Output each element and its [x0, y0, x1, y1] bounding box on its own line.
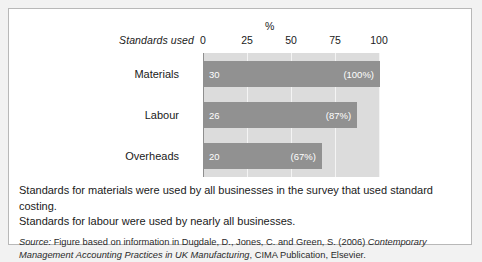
source-text-1: Figure based on information in Dugdale, … [51, 237, 368, 247]
bar-materials: 30(100%) [204, 61, 380, 87]
bar-overheads: 20(67%) [204, 143, 322, 169]
bar-count-label-overheads: 20 [209, 151, 220, 162]
x-axis-tick-row: 0255075100 [203, 34, 379, 48]
axis-unit-label: % [265, 20, 274, 32]
bar-count-label-labour: 26 [209, 110, 220, 121]
source-text-2: , CIMA Publication, Elsevier. [250, 250, 366, 260]
x-axis-tick-25: 25 [232, 34, 262, 46]
x-axis-tick-0: 0 [188, 34, 218, 46]
source-title-2: Accounting Practices in UK Manufacturing [76, 250, 250, 260]
caption-line-2: Standards for labour were used by nearly… [19, 214, 461, 230]
bar-chart: % Standards used 0255075100 MaterialsLab… [9, 9, 471, 179]
caption-line-1: Standards for materials were used by all… [19, 183, 461, 214]
bar-count-label-materials: 30 [209, 68, 220, 79]
figure-text-block: Standards for materials were used by all… [9, 179, 471, 262]
bar-percent-label-materials: (100%) [343, 68, 374, 79]
bar-percent-label-labour: (87%) [326, 110, 351, 121]
category-label-materials: Materials [9, 68, 179, 80]
figure-card: % Standards used 0255075100 MaterialsLab… [8, 8, 472, 245]
category-label-column: MaterialsLabourOverheads [9, 53, 194, 177]
source-label: Source: [19, 237, 51, 247]
category-label-overheads: Overheads [9, 150, 179, 162]
x-axis-tick-75: 75 [320, 34, 350, 46]
x-axis-tick-50: 50 [276, 34, 306, 46]
y-axis-title: Standards used [9, 34, 194, 46]
bar-percent-label-overheads: (67%) [291, 151, 316, 162]
bar-labour: 26(87%) [204, 102, 357, 128]
category-label-labour: Labour [9, 109, 179, 121]
x-axis-tick-100: 100 [364, 34, 394, 46]
source-note: Source: Figure based on information in D… [19, 236, 461, 262]
plot-area: 30(100%)26(87%)20(67%) [203, 53, 380, 177]
